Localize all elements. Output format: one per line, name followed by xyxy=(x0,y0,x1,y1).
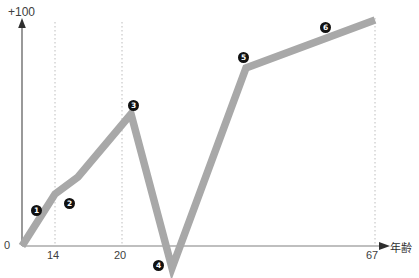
origin-label: 0 xyxy=(4,240,10,251)
x-axis-arrow-icon xyxy=(379,242,390,250)
life-curve-chart: +100 0 14 20 67 年齢 1 2 3 4 5 6 xyxy=(0,0,419,278)
y-axis-arrow-icon xyxy=(18,18,26,28)
life-curve-line xyxy=(22,20,375,268)
x-tick-label-20: 20 xyxy=(114,250,126,261)
annotation-marker-5: 5 xyxy=(238,52,249,63)
annotation-marker-4: 4 xyxy=(153,260,164,271)
x-tick-label-14: 14 xyxy=(47,250,59,261)
annotation-marker-1: 1 xyxy=(31,205,42,216)
annotation-marker-3: 3 xyxy=(128,100,139,111)
annotation-marker-2: 2 xyxy=(64,198,75,209)
chart-plot-area xyxy=(0,0,419,278)
x-axis-title: 年齢 xyxy=(390,243,412,254)
x-tick-label-67: 67 xyxy=(366,250,378,261)
y-axis-max-label: +100 xyxy=(8,6,35,18)
annotation-marker-6: 6 xyxy=(320,22,331,33)
